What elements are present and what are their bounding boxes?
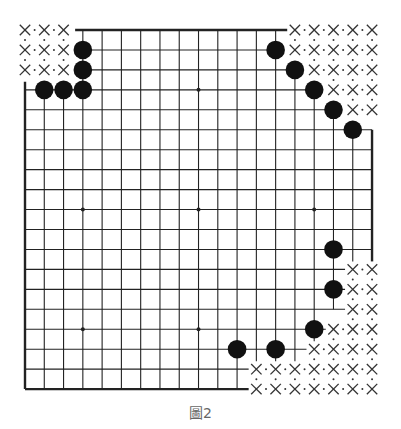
x-mark-icon (328, 384, 338, 394)
dot-separator (275, 378, 277, 380)
x-mark-icon (328, 45, 338, 55)
dot-separator (43, 39, 45, 41)
dot-separator (284, 388, 286, 390)
x-mark-icon (367, 324, 377, 334)
dot-separator (323, 388, 325, 390)
dot-separator (361, 368, 363, 370)
figure-caption: 圖2 (0, 402, 401, 422)
black-stone (74, 41, 93, 60)
x-mark-icon (367, 45, 377, 55)
dot-separator (342, 388, 344, 390)
x-mark-icon (348, 344, 358, 354)
dot-separator (342, 89, 344, 91)
x-mark-icon (58, 65, 68, 75)
x-mark-icon (348, 324, 358, 334)
dot-separator (361, 308, 363, 310)
x-mark-icon (270, 384, 280, 394)
black-stone (266, 41, 285, 60)
x-mark-icon (367, 304, 377, 314)
x-mark-icon (251, 384, 261, 394)
dot-separator (53, 29, 55, 31)
star-point (197, 208, 201, 212)
x-mark-icon (58, 25, 68, 35)
x-mark-icon (328, 65, 338, 75)
dot-separator (371, 79, 373, 81)
go-board-diagram (0, 0, 401, 400)
dot-separator (342, 69, 344, 71)
dot-separator (352, 298, 354, 300)
dot-separator (352, 59, 354, 61)
x-mark-icon (348, 364, 358, 374)
star-point (197, 327, 201, 331)
black-stone (228, 340, 247, 359)
x-mark-icon (348, 264, 358, 274)
black-stone (343, 120, 362, 139)
black-stone (54, 81, 73, 100)
x-mark-icon (348, 304, 358, 314)
star-point (81, 208, 85, 212)
x-mark-icon (348, 25, 358, 35)
black-stone (286, 61, 305, 80)
x-mark-icon (251, 364, 261, 374)
dot-separator (304, 29, 306, 31)
dot-separator (34, 29, 36, 31)
x-mark-icon (348, 65, 358, 75)
dot-separator (332, 59, 334, 61)
dot-separator (371, 338, 373, 340)
x-mark-icon (348, 105, 358, 115)
dot-separator (371, 39, 373, 41)
dot-separator (371, 358, 373, 360)
dot-separator (313, 378, 315, 380)
black-stone (305, 81, 324, 100)
dot-separator (342, 29, 344, 31)
dot-separator (361, 89, 363, 91)
dot-separator (313, 39, 315, 41)
dot-separator (371, 378, 373, 380)
x-mark-icon (367, 284, 377, 294)
dot-separator (53, 69, 55, 71)
dot-separator (332, 39, 334, 41)
x-mark-icon (270, 364, 280, 374)
x-mark-icon (367, 264, 377, 274)
dot-separator (352, 318, 354, 320)
dot-separator (304, 49, 306, 51)
star-point (312, 208, 316, 212)
black-stone (35, 81, 54, 100)
dot-separator (352, 99, 354, 101)
dot-separator (313, 358, 315, 360)
x-mark-icon (309, 25, 319, 35)
dot-separator (34, 49, 36, 51)
x-mark-icon (348, 45, 358, 55)
black-stone (74, 61, 93, 80)
dot-separator (342, 368, 344, 370)
x-mark-icon (328, 324, 338, 334)
dot-separator (361, 288, 363, 290)
x-mark-icon (367, 344, 377, 354)
dot-separator (371, 318, 373, 320)
x-mark-icon (309, 45, 319, 55)
dot-separator (294, 378, 296, 380)
dot-separator (342, 49, 344, 51)
x-mark-icon (309, 384, 319, 394)
dot-separator (265, 368, 267, 370)
dot-separator (342, 348, 344, 350)
x-mark-icon (290, 25, 300, 35)
x-mark-icon (367, 105, 377, 115)
x-mark-icon (367, 85, 377, 95)
dot-separator (352, 278, 354, 280)
x-mark-icon (20, 25, 30, 35)
x-mark-icon (348, 384, 358, 394)
x-mark-icon (367, 65, 377, 75)
dot-separator (255, 378, 257, 380)
dot-separator (332, 79, 334, 81)
dot-separator (352, 378, 354, 380)
dot-separator (323, 69, 325, 71)
dot-separator (284, 368, 286, 370)
x-mark-icon (39, 25, 49, 35)
black-stone (324, 101, 343, 120)
dot-separator (313, 59, 315, 61)
x-mark-icon (367, 384, 377, 394)
x-mark-icon (328, 85, 338, 95)
dot-separator (53, 49, 55, 51)
x-mark-icon (290, 45, 300, 55)
